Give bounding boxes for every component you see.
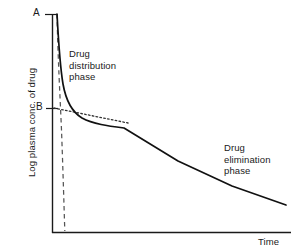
elimination-phase-annotation: Drug elimination phase xyxy=(224,142,271,177)
point-a-marker-label: A xyxy=(33,7,40,19)
point-b-marker-label: B xyxy=(36,101,43,113)
elimination-extrapolation-line xyxy=(54,108,128,123)
x-axis-label: Time xyxy=(258,236,279,248)
distribution-residual-line xyxy=(57,14,65,231)
y-axis-label: Log plasma conc. of drug xyxy=(26,43,37,203)
pharmacokinetics-figure: Log plasma conc. of drug Time A B Drug d… xyxy=(0,0,299,252)
plot-area xyxy=(0,0,299,252)
distribution-phase-annotation: Drug distribution phase xyxy=(69,48,116,83)
